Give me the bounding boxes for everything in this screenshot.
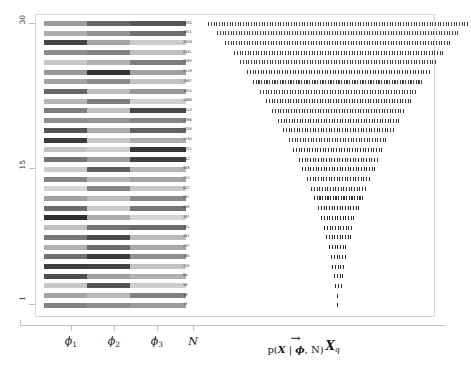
sample-strip (321, 216, 356, 220)
heatmap-column-phi-3 (130, 15, 186, 318)
n-value: 808 (183, 167, 205, 171)
sample-strip (307, 177, 370, 181)
x-axis-tick (71, 325, 72, 331)
n-value: 13 (183, 303, 205, 307)
sample-strip (253, 80, 425, 84)
n-value: 1386 (183, 119, 205, 123)
n-value: 160 (183, 255, 205, 259)
n-value: 2260 (183, 60, 205, 64)
heatmap-cell (130, 138, 186, 143)
sample-strip (337, 303, 339, 307)
heatmap-cell (130, 215, 186, 220)
n-value: 1987 (183, 80, 205, 84)
sample-strip (283, 128, 393, 132)
x-axis-tick-label-N: N (168, 335, 218, 348)
sample-strip (240, 60, 437, 64)
n-value: 33 (183, 294, 205, 298)
xq-label: Xq (326, 339, 340, 354)
heatmap-cell (130, 128, 186, 133)
sample-strip (337, 294, 341, 298)
heatmap-cell (130, 31, 186, 36)
sample-strip (289, 138, 389, 142)
heatmap-cell (130, 147, 186, 152)
x-axis-line (20, 325, 445, 326)
heatmap-cell (130, 118, 186, 123)
sample-strip (234, 51, 444, 55)
n-value: 387 (183, 216, 205, 220)
heatmap-cell (130, 245, 186, 250)
heatmap-cell (130, 89, 186, 94)
x-axis-tick (157, 325, 158, 331)
n-value: 1021 (183, 148, 205, 152)
n-value: 712 (183, 177, 205, 181)
heatmap-cell (130, 235, 186, 240)
n-value: 2811 (183, 31, 205, 35)
x-axis-tick (114, 325, 115, 331)
heatmap-cell (130, 293, 186, 298)
n-value: 1130 (183, 138, 205, 142)
n-value: 1825 (183, 90, 205, 94)
heatmap-cell (130, 79, 186, 84)
heatmap-cell (130, 50, 186, 55)
heatmap-cell (130, 70, 186, 75)
sample-strip (266, 99, 411, 103)
heatmap-cell (130, 60, 186, 65)
sample-strip (314, 196, 362, 200)
heatmap-cell (130, 177, 186, 182)
sample-strip (331, 255, 347, 259)
n-value: 622 (183, 187, 205, 191)
sample-strip (225, 41, 453, 45)
heatmap-cell (130, 99, 186, 104)
n-value: 56 (183, 284, 205, 288)
sample-strip (293, 148, 383, 152)
n-value: 2628 (183, 41, 205, 45)
sample-strip (278, 119, 400, 123)
sample-strip (329, 245, 349, 249)
sample-strip (299, 158, 379, 162)
heatmap-cell (130, 283, 186, 288)
sample-strip (332, 265, 344, 269)
heatmap-cell (130, 254, 186, 259)
heatmap-cell (130, 108, 186, 113)
x-axis-tick (193, 325, 194, 331)
sample-strip (217, 31, 461, 35)
sample-strip (335, 284, 341, 288)
n-value: 1258 (183, 128, 205, 132)
y-axis: 30151 (0, 14, 35, 317)
y-axis-tick-label: 1 (19, 296, 27, 301)
n-value: 2118 (183, 70, 205, 74)
n-value: 119 (183, 265, 205, 269)
heatmap-cell (130, 264, 186, 269)
n-value: 84 (183, 274, 205, 278)
heatmap-cell (130, 225, 186, 230)
heatmap-cell (130, 40, 186, 45)
heatmap-cell (130, 206, 186, 211)
n-value: 1668 (183, 99, 205, 103)
sample-strip (334, 274, 343, 278)
heatmap-cell (130, 157, 186, 162)
n-value: 207 (183, 245, 205, 249)
n-value: 261 (183, 235, 205, 239)
sample-strip (272, 109, 404, 113)
n-value: 1510 (183, 109, 205, 113)
y-axis-tick-label: 15 (19, 160, 27, 170)
sample-strip (247, 70, 430, 74)
sample-strip (311, 187, 367, 191)
heatmap-cell (130, 21, 186, 26)
n-value: 912 (183, 158, 205, 162)
n-value: 321 (183, 226, 205, 230)
sample-strip (324, 226, 354, 230)
n-value: 537 (183, 196, 205, 200)
heatmap-cell (130, 274, 186, 279)
heatmap-cell (130, 186, 186, 191)
y-axis-tick-label: 30 (19, 15, 27, 25)
n-value-column: 3030281126282431226021181987182516681510… (183, 15, 205, 318)
sample-strip (302, 167, 374, 171)
sample-strip (208, 22, 470, 26)
n-value: 2431 (183, 51, 205, 55)
heatmap-cell (130, 196, 186, 201)
sample-strip (326, 235, 351, 239)
plot-frame: 3030281126282431226021181987182516681510… (35, 14, 435, 317)
heatmap-cell (130, 167, 186, 172)
